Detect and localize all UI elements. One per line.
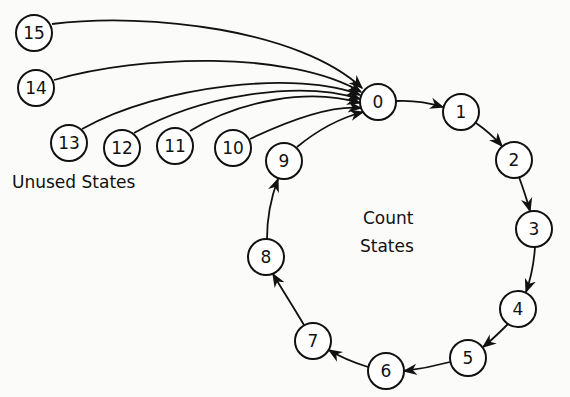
state-node-3: 3 xyxy=(516,211,552,247)
svg-text:11: 11 xyxy=(164,136,186,156)
edge-10-to-0 xyxy=(250,108,361,139)
svg-text:15: 15 xyxy=(23,23,45,43)
svg-text:9: 9 xyxy=(279,151,290,171)
edge-13-to-0 xyxy=(82,83,360,129)
state-node-14: 14 xyxy=(18,70,54,106)
svg-text:4: 4 xyxy=(513,299,524,319)
edge-7-to-8 xyxy=(273,274,304,325)
svg-text:13: 13 xyxy=(58,133,80,153)
edge-5-to-6 xyxy=(404,362,450,371)
svg-text:8: 8 xyxy=(261,247,272,267)
svg-text:2: 2 xyxy=(509,150,520,170)
edge-14-to-0 xyxy=(54,61,361,92)
count-states-label-line2: States xyxy=(360,236,414,256)
svg-text:0: 0 xyxy=(373,92,384,112)
svg-text:3: 3 xyxy=(529,219,540,239)
state-node-0: 0 xyxy=(360,84,396,120)
unused-states-label: Unused States xyxy=(12,172,136,192)
state-node-7: 7 xyxy=(295,323,331,359)
edge-8-to-9 xyxy=(267,179,278,239)
edge-4-to-5 xyxy=(483,324,508,347)
state-node-9: 9 xyxy=(266,143,302,179)
edge-9-to-0 xyxy=(297,112,363,147)
edge-1-to-2 xyxy=(476,123,502,146)
state-node-1: 1 xyxy=(443,94,479,130)
svg-text:7: 7 xyxy=(308,331,319,351)
svg-text:6: 6 xyxy=(381,361,392,381)
state-node-2: 2 xyxy=(496,142,532,178)
svg-text:1: 1 xyxy=(456,102,467,122)
svg-text:5: 5 xyxy=(463,348,474,368)
svg-text:10: 10 xyxy=(222,138,244,158)
state-node-12: 12 xyxy=(104,130,140,166)
edge-3-to-4 xyxy=(526,247,535,292)
state-node-15: 15 xyxy=(16,15,52,51)
state-node-5: 5 xyxy=(450,340,486,376)
edge-15-to-0 xyxy=(52,20,362,88)
edge-6-to-7 xyxy=(329,350,368,367)
state-node-6: 6 xyxy=(368,353,404,389)
count-states-label-line1: Count xyxy=(363,208,414,228)
state-node-10: 10 xyxy=(215,130,251,166)
state-node-11: 11 xyxy=(157,128,193,164)
diagram-canvas: 0 1 2 3 4 5 6 7 8 9 10 11 12 13 14 15 Un… xyxy=(0,0,570,397)
state-diagram: 0 1 2 3 4 5 6 7 8 9 10 11 12 13 14 15 Un… xyxy=(0,0,570,397)
state-node-8: 8 xyxy=(248,239,284,275)
edge-0-to-1 xyxy=(396,101,443,107)
svg-text:12: 12 xyxy=(111,138,133,158)
edge-2-to-3 xyxy=(519,177,530,211)
state-node-4: 4 xyxy=(500,291,536,327)
state-node-13: 13 xyxy=(51,125,87,161)
svg-text:14: 14 xyxy=(25,78,47,98)
